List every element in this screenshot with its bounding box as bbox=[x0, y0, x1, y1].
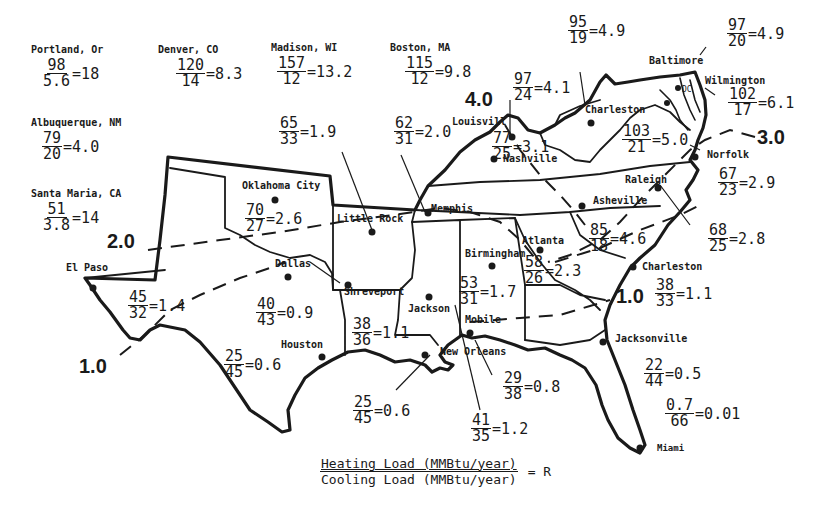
dot-dc bbox=[664, 100, 670, 106]
legend-denominator: Cooling Load (MMBtu/year) bbox=[320, 472, 518, 487]
ratio-albuquerque: 7920=4.0 bbox=[42, 131, 99, 162]
label-louisville: Louisvill bbox=[452, 116, 506, 127]
cooling-value: 45 bbox=[353, 411, 373, 426]
dot-little-rock bbox=[369, 229, 376, 236]
label-oklahoma-city: Oklahoma City bbox=[242, 180, 320, 191]
ratio-jacksonville: 2244=0.5 bbox=[644, 358, 701, 389]
ratio-madison: 15712=13.2 bbox=[277, 56, 352, 87]
cooling-value: 17 bbox=[733, 103, 753, 118]
ratio-value: =4.9 bbox=[748, 25, 784, 43]
label-wv-charleston: Charleston bbox=[585, 104, 645, 115]
cooling-value: 3.8 bbox=[42, 218, 71, 233]
ratio-value: =2.3 bbox=[545, 262, 581, 280]
cooling-value: 31 bbox=[394, 132, 414, 147]
dot-wv-charleston bbox=[588, 120, 595, 127]
leader-wv-charleston bbox=[580, 72, 585, 105]
label-charleston-sc: Charleston bbox=[642, 261, 702, 272]
ratio-value: =2.8 bbox=[729, 230, 765, 248]
ratio-value: =18 bbox=[72, 65, 99, 83]
label-little-rock: Little Rock bbox=[337, 213, 403, 224]
ratio-santa-maria: 513.8=14 bbox=[42, 202, 99, 233]
label-miami: Miami bbox=[657, 443, 684, 453]
ratio-raleigh: 6825=2.8 bbox=[708, 223, 765, 254]
cooling-value: 18 bbox=[589, 239, 609, 254]
dot-el-paso bbox=[90, 285, 97, 292]
ratio-jackson: 4135=1.2 bbox=[471, 413, 528, 444]
cooling-value: 12 bbox=[282, 72, 302, 87]
contour-label-1-west: 1.0 bbox=[79, 355, 107, 378]
cooling-value: 20 bbox=[42, 147, 62, 162]
ratio-value: =9.8 bbox=[435, 63, 471, 81]
label-baltimore: Baltimore bbox=[649, 55, 703, 66]
legend-formula: Heating Load (MMBtu/year) Cooling Load (… bbox=[320, 456, 551, 487]
label-asheville: Asheville bbox=[593, 195, 647, 206]
ratio-birmingham: 5331=1.7 bbox=[459, 276, 516, 307]
cooling-value: 23 bbox=[718, 183, 738, 198]
cooling-value: 44 bbox=[644, 374, 664, 389]
ratio-atlanta: 5826=2.3 bbox=[524, 255, 581, 286]
ratio-value: =1.4 bbox=[149, 297, 185, 315]
ratio-value: =0.01 bbox=[695, 405, 740, 423]
label-memphis: Memphis bbox=[431, 203, 473, 214]
cooling-value: 14 bbox=[181, 74, 201, 89]
label-atlanta: Atlanta bbox=[522, 235, 564, 246]
label-dc: DC bbox=[682, 85, 692, 94]
dot-miami bbox=[637, 445, 644, 452]
ratio-miami: 0.766=0.01 bbox=[665, 398, 740, 429]
cooling-value: 12 bbox=[410, 72, 430, 87]
ratio-value: =3.1 bbox=[513, 138, 549, 156]
ratio-value: =1.7 bbox=[480, 283, 516, 301]
ratio-value: =14 bbox=[72, 209, 99, 227]
contour-label-1-east: 1.0 bbox=[616, 285, 644, 308]
ratio-norfolk: 6723=2.9 bbox=[718, 167, 775, 198]
ratio-value: =2.9 bbox=[739, 174, 775, 192]
ratio-value: =0.9 bbox=[277, 304, 313, 322]
ratio-value: =1.1 bbox=[373, 324, 409, 342]
cooling-value: 38 bbox=[503, 387, 523, 402]
ratio-wilmington: 10217=6.1 bbox=[728, 87, 794, 118]
label-albuquerque: Albuquerque, NM bbox=[31, 117, 121, 128]
ratio-value: =0.5 bbox=[665, 365, 701, 383]
cooling-value: 19 bbox=[568, 31, 588, 46]
dot-new-orleans bbox=[422, 352, 429, 359]
dot-norfolk bbox=[692, 154, 699, 161]
dot-raleigh bbox=[655, 185, 662, 192]
label-el-paso: El Paso bbox=[66, 262, 108, 273]
cooling-value: 31 bbox=[459, 292, 479, 307]
ratio-charleston-sc: 3833=1.1 bbox=[655, 278, 712, 309]
ratio-value: =2.6 bbox=[266, 210, 302, 228]
leader-memphis bbox=[401, 155, 425, 212]
leader-dallas bbox=[310, 262, 340, 283]
cooling-value: 27 bbox=[245, 219, 265, 234]
dot-charleston-sc bbox=[630, 264, 637, 271]
cooling-value: 36 bbox=[352, 333, 372, 348]
legend-equals-r: = R bbox=[528, 464, 551, 479]
label-new-orleans: New Orleans bbox=[440, 346, 506, 357]
ratio-value: =0.6 bbox=[245, 356, 281, 374]
leader-wilmington bbox=[705, 88, 715, 95]
ratio-el-paso: 4532=1.4 bbox=[128, 290, 185, 321]
dot-baltimore bbox=[675, 85, 681, 91]
cooling-value: 43 bbox=[256, 313, 276, 328]
ratio-baltimore: 9720=4.9 bbox=[727, 18, 784, 49]
cooling-value: 24 bbox=[513, 88, 533, 103]
dot-asheville bbox=[579, 203, 586, 210]
ratio-louisville: 9724=4.1 bbox=[513, 72, 570, 103]
dot-birmingham bbox=[489, 263, 496, 270]
ratio-nashville: 7725=3.1 bbox=[492, 131, 549, 162]
label-portland: Portland, Or bbox=[31, 44, 103, 55]
label-houston: Houston bbox=[281, 339, 323, 350]
ratio-value: =0.8 bbox=[524, 378, 560, 396]
contour-label-4: 4.0 bbox=[465, 88, 493, 111]
ratio-value: =4.6 bbox=[610, 230, 646, 248]
label-santa-maria: Santa Maria, CA bbox=[31, 188, 121, 199]
ratio-little-rock: 6533=1.9 bbox=[279, 116, 336, 147]
cooling-value: 25 bbox=[492, 147, 512, 162]
ratio-value: =0.6 bbox=[374, 402, 410, 420]
ratio-value: =6.1 bbox=[758, 94, 794, 112]
label-denver: Denver, CO bbox=[158, 44, 218, 55]
legend-numerator: Heating Load (MMBtu/year) bbox=[320, 456, 518, 472]
ratio-value: =1.1 bbox=[676, 285, 712, 303]
cooling-value: 45 bbox=[224, 365, 244, 380]
ratio-shreveport: 3836=1.1 bbox=[352, 317, 409, 348]
